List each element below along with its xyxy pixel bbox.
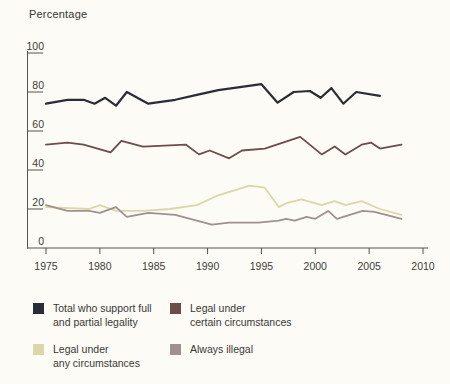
chart-legend: Total who support full and partial legal… bbox=[0, 0, 450, 384]
legend-item-illegal: Always illegal bbox=[170, 342, 300, 356]
legend-swatch-total bbox=[33, 303, 44, 314]
legend-label-certain-line1: Legal under bbox=[190, 302, 245, 314]
legend-label-total-line1: Total who support full bbox=[53, 302, 152, 314]
legend-swatch-any bbox=[33, 344, 44, 355]
legend-item-certain: Legal under certain circumstances bbox=[170, 301, 300, 329]
legend-item-total: Total who support full and partial legal… bbox=[33, 301, 163, 329]
legend-swatch-illegal bbox=[170, 344, 181, 355]
legend-label-illegal-line1: Always illegal bbox=[190, 343, 253, 355]
legend-label-any-line2: any circumstances bbox=[53, 357, 140, 369]
legend-swatch-certain bbox=[170, 303, 181, 314]
legend-label-any-line1: Legal under bbox=[53, 343, 108, 355]
legend-label-total-line2: and partial legality bbox=[53, 316, 138, 328]
legend-item-any: Legal under any circumstances bbox=[33, 342, 163, 370]
chart-page: Percentage 10080604020019751980198519901… bbox=[0, 0, 450, 384]
legend-label-certain-line2: certain circumstances bbox=[190, 316, 292, 328]
